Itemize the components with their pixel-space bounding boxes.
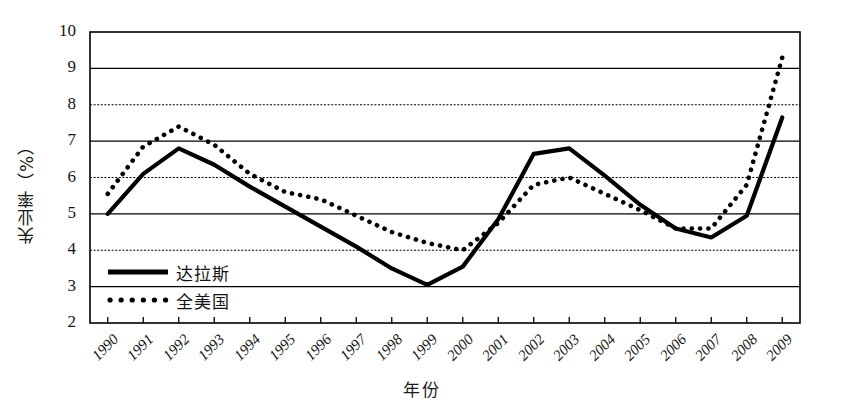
y-tick-label: 3 — [50, 276, 76, 296]
chart-figure: 失业率（%） 年份 2345678910 1990199119921993199… — [0, 0, 844, 415]
y-tick-label: 4 — [50, 239, 76, 259]
y-axis-title: 失业率（%） — [6, 100, 46, 280]
grid-lines — [90, 68, 800, 286]
legend-label-2: 全美国 — [176, 288, 230, 313]
y-tick-label: 10 — [50, 21, 76, 41]
y-tick-label: 8 — [50, 94, 76, 114]
x-axis-title: 年份 — [0, 376, 844, 401]
y-tick-label: 6 — [50, 167, 76, 187]
x-axis-ticks — [108, 317, 783, 323]
y-tick-label: 7 — [50, 130, 76, 150]
y-tick-label: 5 — [50, 203, 76, 223]
legend-label-1: 达拉斯 — [176, 260, 230, 285]
y-tick-label: 9 — [50, 57, 76, 77]
series-line-2 — [108, 57, 783, 250]
y-tick-label: 2 — [50, 312, 76, 332]
